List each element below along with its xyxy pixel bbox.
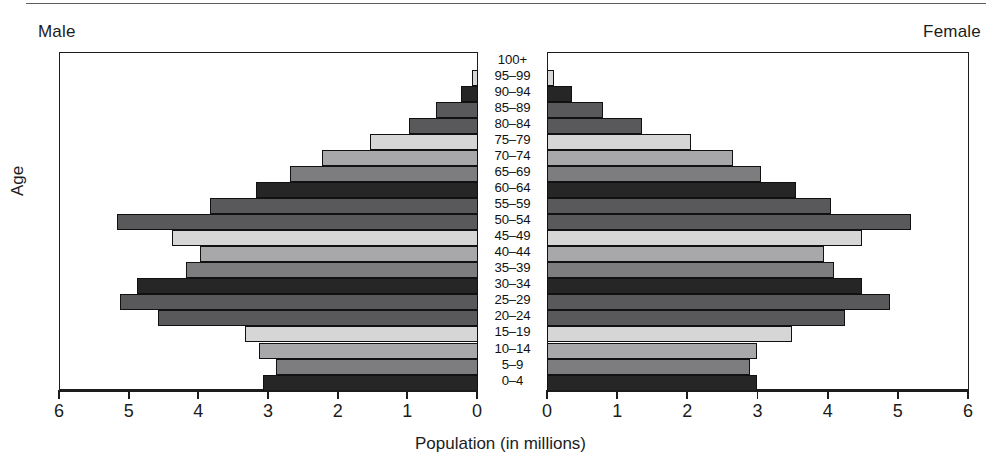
bar-male-85-89 [436, 102, 478, 118]
bar-row [60, 359, 477, 375]
bar-row [548, 118, 968, 134]
bar-female-75-79 [547, 134, 691, 150]
age-group-label: 25–29 [478, 293, 547, 306]
bar-row [548, 182, 968, 198]
bar-male-70-74 [322, 150, 478, 166]
bar-female-55-59 [547, 198, 831, 214]
age-group-label: 75–79 [478, 133, 547, 146]
bar-male-90-94 [461, 86, 478, 102]
bar-row [548, 198, 968, 214]
bar-male-15-19 [245, 326, 478, 342]
bar-male-30-34 [137, 278, 478, 294]
bar-row [548, 54, 968, 70]
bar-male-75-79 [370, 134, 478, 150]
age-group-label: 70–74 [478, 149, 547, 162]
bar-row [60, 375, 477, 391]
bar-male-0-4 [263, 375, 478, 391]
bar-row [60, 214, 477, 230]
bar-row [548, 86, 968, 102]
axis-tick-label: 4 [193, 401, 203, 421]
page-top-rule [26, 3, 986, 4]
bar-female-70-74 [547, 150, 733, 166]
bar-female-20-24 [547, 310, 845, 326]
bar-female-15-19 [547, 326, 792, 342]
bar-row [60, 278, 477, 294]
axis-tick [897, 390, 899, 399]
bar-male-45-49 [172, 230, 478, 246]
axis-tick-label: 0 [542, 401, 552, 421]
axis-tick-label: 1 [402, 401, 412, 421]
axis-tick-label: 3 [752, 401, 762, 421]
age-group-label: 65–69 [478, 165, 547, 178]
age-group-label: 35–39 [478, 261, 547, 274]
male-bar-group [60, 53, 477, 389]
axis-tick [406, 390, 408, 399]
bar-row [548, 150, 968, 166]
bar-row [60, 134, 477, 150]
bar-row [60, 246, 477, 262]
age-group-label: 60–64 [478, 181, 547, 194]
bar-row [60, 86, 477, 102]
axis-tick [197, 390, 199, 399]
age-group-label: 30–34 [478, 277, 547, 290]
bar-female-0-4 [547, 375, 757, 391]
bar-row [60, 118, 477, 134]
bar-male-5-9 [276, 359, 478, 375]
bar-row [548, 246, 968, 262]
axis-tick-label: 3 [263, 401, 273, 421]
bar-row [548, 214, 968, 230]
bar-female-45-49 [547, 230, 862, 246]
bar-row [60, 166, 477, 182]
bar-row [548, 70, 968, 86]
axis-tick [827, 390, 829, 399]
bar-row [548, 359, 968, 375]
bar-row [60, 343, 477, 359]
age-group-label: 40–44 [478, 245, 547, 258]
bar-male-10-14 [259, 343, 478, 359]
age-group-label: 80–84 [478, 117, 547, 130]
axis-tick [967, 390, 969, 399]
bar-row [548, 375, 968, 391]
bar-female-80-84 [547, 118, 642, 134]
axis-tick [337, 390, 339, 399]
age-group-label: 55–59 [478, 197, 547, 210]
axis-tick [546, 390, 548, 399]
age-group-label: 100+ [478, 53, 547, 66]
bar-female-85-89 [547, 102, 603, 118]
female-plot-area [547, 52, 969, 390]
bar-row [60, 102, 477, 118]
bar-row [548, 310, 968, 326]
bar-female-25-29 [547, 294, 890, 310]
bar-male-25-29 [120, 294, 478, 310]
age-group-label: 85–89 [478, 101, 547, 114]
bar-female-65-69 [547, 166, 761, 182]
axis-tick-label: 6 [54, 401, 64, 421]
age-group-label-column: 100+95–9990–9485–8980–8475–7970–7465–696… [478, 46, 547, 396]
axis-tick-label: 1 [612, 401, 622, 421]
bar-row [60, 198, 477, 214]
bar-male-20-24 [158, 310, 478, 326]
bar-female-90-94 [547, 86, 572, 102]
bar-male-40-44 [200, 246, 478, 262]
bar-male-50-54 [117, 214, 478, 230]
bar-row [548, 262, 968, 278]
bar-row [60, 262, 477, 278]
bar-female-35-39 [547, 262, 834, 278]
bar-female-10-14 [547, 343, 757, 359]
bar-female-40-44 [547, 246, 824, 262]
bar-row [548, 326, 968, 342]
male-panel-label: Male [38, 22, 76, 42]
bar-row [60, 310, 477, 326]
female-x-axis: 0123456 [547, 390, 969, 391]
axis-tick [616, 390, 618, 399]
bar-female-5-9 [547, 359, 750, 375]
bar-row [548, 343, 968, 359]
bar-row [60, 150, 477, 166]
bar-female-50-54 [547, 214, 911, 230]
bar-female-95-99 [547, 70, 554, 86]
age-group-label: 45–49 [478, 229, 547, 242]
axis-tick [128, 390, 130, 399]
axis-tick [267, 390, 269, 399]
bar-row [548, 102, 968, 118]
axis-tick-label: 5 [124, 401, 134, 421]
